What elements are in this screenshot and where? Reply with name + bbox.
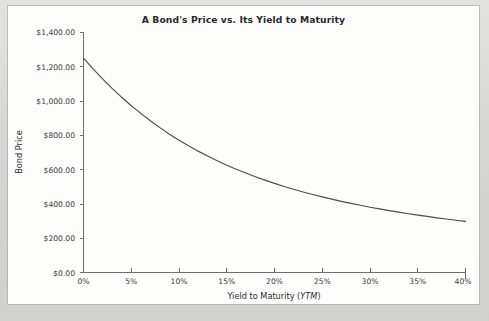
y-tick-label: $1,400.00 xyxy=(36,28,75,37)
y-axis-ticks: $1,400.00 $1,200.00 $1,000.00 $800.00 $6… xyxy=(36,28,83,277)
x-tick-label: 15% xyxy=(218,277,235,286)
y-tick-label: $800.00 xyxy=(44,131,76,140)
y-tick-label: $200.00 xyxy=(44,234,76,243)
chart-panel: A Bond's Price vs. Its Yield to Maturity… xyxy=(8,6,479,304)
x-axis-title-italic: YTM xyxy=(300,291,317,301)
x-tick-label: 35% xyxy=(409,277,426,286)
x-tick-label: 30% xyxy=(362,277,379,286)
y-tick-label: $0.00 xyxy=(53,269,75,278)
figure-root: A Bond's Price vs. Its Yield to Maturity… xyxy=(0,0,489,321)
x-tick-label: 10% xyxy=(171,277,188,286)
x-tick-label: 0% xyxy=(77,277,89,286)
x-tick-label: 40% xyxy=(455,277,472,286)
x-axis-title-plain: Yield to Maturity ( xyxy=(226,291,300,301)
y-axis-title: Bond Price xyxy=(14,130,24,174)
x-tick-label: 20% xyxy=(266,277,283,286)
y-tick-label: $1,000.00 xyxy=(36,97,75,106)
bond-price-curve xyxy=(84,58,466,221)
x-axis-title: Yield to Maturity (YTM) xyxy=(226,291,320,301)
x-axis-title-close: ) xyxy=(317,291,320,301)
y-tick-label: $1,200.00 xyxy=(36,63,75,72)
y-tick-label: $400.00 xyxy=(44,200,76,209)
x-tick-label: 5% xyxy=(125,277,137,286)
y-tick-label: $600.00 xyxy=(44,166,76,175)
x-tick-label: 25% xyxy=(314,277,331,286)
plot-area: $1,400.00 $1,200.00 $1,000.00 $800.00 $6… xyxy=(8,6,479,304)
x-axis-ticks: 0% 5% 10% 15% 20% 25% 30% 35% 40% xyxy=(77,268,471,286)
